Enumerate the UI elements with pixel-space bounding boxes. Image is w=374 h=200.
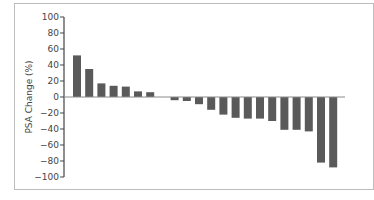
- y-tick-label: 60: [48, 44, 60, 54]
- bar-17: [268, 97, 276, 121]
- y-tick-label: −100: [34, 172, 59, 182]
- bar-4: [110, 86, 118, 97]
- bar-18: [280, 97, 288, 130]
- y-tick-label: −60: [40, 140, 59, 150]
- bar-7: [146, 92, 154, 97]
- bar-10: [183, 97, 191, 101]
- bar-11: [195, 97, 203, 104]
- bar-14: [232, 97, 240, 118]
- bar-3: [97, 83, 105, 97]
- bar-19: [293, 97, 301, 130]
- y-tick-label: 80: [48, 28, 60, 38]
- bar-15: [244, 97, 252, 119]
- y-tick-label: 0: [53, 92, 59, 102]
- y-tick-label: −40: [40, 124, 59, 134]
- y-tick-label: −20: [40, 108, 59, 118]
- y-tick-label: −80: [40, 156, 59, 166]
- y-axis-title: PSA Change (%): [24, 60, 34, 133]
- bar-1: [73, 55, 81, 97]
- y-tick-label: 40: [48, 60, 60, 70]
- bar-22: [329, 97, 337, 167]
- y-axis: 100806040200−20−40−60−80−100: [34, 12, 64, 182]
- y-tick-label: 20: [48, 76, 60, 86]
- y-tick-label: 100: [42, 12, 59, 22]
- bar-2: [85, 69, 93, 97]
- bar-12: [207, 97, 215, 110]
- bar-16: [256, 97, 264, 119]
- bar-5: [122, 87, 130, 97]
- bar-6: [134, 91, 142, 97]
- bars: [73, 55, 337, 167]
- bar-21: [317, 97, 325, 163]
- bar-13: [219, 97, 227, 115]
- bar-20: [305, 97, 313, 131]
